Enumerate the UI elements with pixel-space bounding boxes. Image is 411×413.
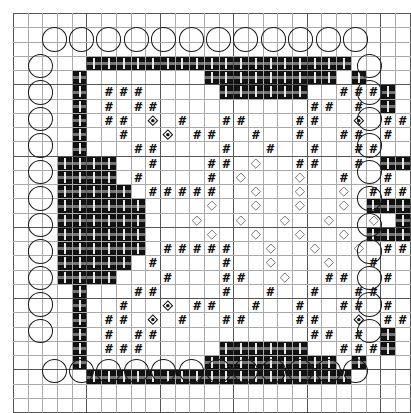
stitch-cell-hash: # [204,128,219,142]
stitch-cell-filled-block [87,227,102,241]
stitch-cell-filled-block [72,85,87,99]
filled-block-icon [308,370,322,383]
stitch-cell-empty [337,113,352,127]
hash-icon: # [308,313,322,326]
stitch-cell-empty [395,370,410,384]
stitch-cell-empty [234,156,249,170]
stitch-cell-hash: # [234,113,249,127]
stitch-cell-oval [28,199,43,213]
stitch-row: ###### [14,156,411,170]
stitch-cell-hash: # [116,85,131,99]
filled-block-icon [308,356,322,369]
stitch-cell-filled-block [131,199,146,213]
stitch-cell-hash: # [219,313,234,327]
hash-icon: # [352,128,366,141]
stitch-cell-hash: # [175,113,190,127]
hash-icon: # [205,171,219,184]
stitch-cell-empty [116,284,131,298]
filled-block-icon [73,228,87,241]
stitch-cell-empty [175,71,190,85]
stitch-cell-empty [293,327,308,341]
stitch-cell-empty [146,384,161,398]
stitch-cell-empty [160,113,175,127]
stitch-cell-oval [204,28,219,42]
filled-block-icon [146,370,160,383]
filled-block-icon [73,214,87,227]
stitch-cell-empty [43,156,58,170]
stitch-cell-empty [263,199,278,213]
hash-icon: # [220,285,234,298]
stitch-cell-empty [43,270,58,284]
hash-icon: # [352,285,366,298]
filled-block-icon [73,256,87,269]
stitch-cell-empty [381,28,396,42]
filled-block-icon [73,285,87,298]
stitch-cell-empty [351,185,366,199]
hash-icon: # [205,299,219,312]
filled-block-icon [190,370,204,383]
filled-block-icon [117,57,131,70]
stitch-cell-oval [28,113,43,127]
stitch-cell-filled-block [293,341,308,355]
stitch-cell-empty [204,99,219,113]
filled-block-icon [205,71,219,84]
stitch-cell-empty [234,227,249,241]
stitch-cell-empty [322,156,337,170]
open-diamond-icon [264,242,278,255]
filled-block-icon [278,57,292,70]
stitch-cell-empty [14,284,29,298]
stitch-cell-filled-block [263,56,278,70]
stitch-cell-filled-block [263,71,278,85]
stitch-cell-empty [263,42,278,56]
stitch-cell-empty [249,327,264,341]
stitch-cell-empty [131,185,146,199]
filled-block-icon [73,85,87,98]
stitch-cell-empty [43,313,58,327]
stitch-cell-oval [234,28,249,42]
stitch-cell-empty [43,56,58,70]
stitch-row [14,28,411,42]
stitch-cell-empty [14,99,29,113]
stitch-cell-empty [58,128,73,142]
stitch-cell-hash: # [102,313,117,327]
stitch-cell-empty [322,185,337,199]
stitch-cell-empty [381,42,396,56]
stitch-cell-filled-block [175,370,190,384]
stitch-cell-filled-block [72,128,87,142]
stitch-cell-empty [43,299,58,313]
stitch-row [14,398,411,412]
stitch-cell-empty [43,170,58,184]
stitch-cell-filled-block [395,227,410,241]
stitch-cell-filled-block [116,199,131,213]
stitch-cell-empty [190,71,205,85]
stitch-cell-filled-block [307,356,322,370]
stitch-cell-filled-block [72,299,87,313]
stitch-cell-empty [278,256,293,270]
hash-icon: # [308,100,322,113]
filled-diamond-icon [352,313,366,326]
filled-block-icon [293,342,307,355]
stitch-cell-empty [322,128,337,142]
stitch-cell-empty [14,327,29,341]
stitch-cell-filled-block [263,341,278,355]
stitch-cell-empty [263,313,278,327]
stitch-cell-empty [249,14,264,28]
hash-icon: # [146,100,160,113]
stitch-cell-oval [28,313,43,327]
stitch-cell-open-diamond [190,213,205,227]
hash-icon: # [190,128,204,141]
stitch-cell-empty [43,242,58,256]
filled-block-icon [322,356,336,369]
filled-block-icon [73,128,87,141]
stitch-cell-empty [43,142,58,156]
stitch-cell-hash: # [337,299,352,313]
stitch-cell-empty [131,356,146,370]
stitch-cell-empty [87,71,102,85]
stitch-cell-filled-block [58,199,73,213]
stitch-cell-open-diamond [249,185,264,199]
stitch-cell-hash: # [351,85,366,99]
stitch-cell-oval [263,28,278,42]
stitch-cell-empty [175,384,190,398]
stitch-cell-filled-block [160,56,175,70]
